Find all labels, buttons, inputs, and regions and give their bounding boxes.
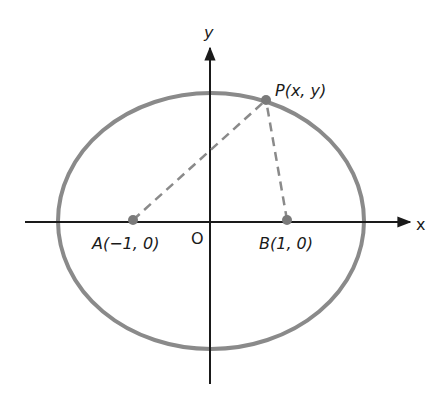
ellipse-diagram: y x O P(x, y) A(−1, 0) B(1, 0): [0, 0, 442, 405]
x-axis-label: x: [416, 215, 425, 234]
point-a: [128, 215, 138, 225]
segment-ap: [133, 100, 266, 220]
point-b: [282, 215, 292, 225]
point-b-label: B(1, 0): [259, 234, 313, 253]
origin-label: O: [191, 229, 204, 248]
segment-bp: [266, 100, 287, 220]
point-p-label: P(x, y): [275, 81, 326, 100]
y-axis-label: y: [203, 23, 214, 42]
point-a-label: A(−1, 0): [91, 234, 159, 253]
point-p: [261, 95, 271, 105]
